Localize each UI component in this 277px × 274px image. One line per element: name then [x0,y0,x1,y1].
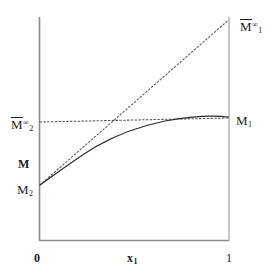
label-m2-infinity-base: M [11,118,23,131]
x-tick-1-text: 1 [226,251,232,265]
label-m2-infinity-sub: 2 [29,124,33,133]
x-axis-label: x1 [127,249,138,266]
figure-container: M∞1 M∞2 M1 M M2 0 x1 1 [0,0,277,274]
label-m2-sub: 2 [29,189,33,198]
x-tick-0-text: 0 [34,251,40,265]
label-m2-infinity: M∞2 [11,116,33,133]
x-tick-0: 0 [34,249,40,265]
x-axis-label-base: x [127,251,133,265]
x-axis-label-sub: 1 [134,257,138,266]
plot-canvas [0,0,277,274]
label-m1-infinity-base: M [240,20,252,33]
label-m1-infinity-sub: 1 [258,26,262,35]
label-m2: M2 [17,181,33,198]
series-m-curve [40,116,229,185]
label-m1-sub: 1 [248,120,252,129]
label-m1-base: M [236,113,248,128]
label-m1-infinity-sup: ∞ [252,20,258,29]
label-m: M [18,155,29,171]
series-m1-infinity-line [40,20,229,185]
label-m-base: M [18,157,29,171]
x-tick-1: 1 [226,249,232,265]
label-m2-base: M [17,182,29,197]
label-m1: M1 [236,112,252,129]
label-m1-infinity: M∞1 [240,18,262,35]
label-m2-infinity-sup: ∞ [23,118,29,127]
series-m2-infinity-line [40,118,229,122]
